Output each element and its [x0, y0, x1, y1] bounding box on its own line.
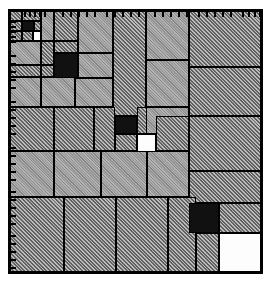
treemap-cell[interactable] [54, 53, 78, 78]
treemap-cell[interactable] [10, 77, 41, 107]
treemap-cell[interactable] [41, 41, 54, 65]
treemap-cell[interactable] [41, 77, 75, 107]
treemap-cell[interactable] [78, 53, 113, 78]
treemap-cell[interactable] [146, 11, 189, 60]
treemap-cell[interactable] [116, 197, 168, 272]
treemap-cell[interactable] [22, 31, 33, 41]
treemap-cell[interactable] [94, 107, 115, 151]
treemap-cell[interactable] [22, 21, 34, 31]
treemap-cell[interactable] [189, 116, 261, 171]
treemap-cell[interactable] [54, 41, 78, 53]
treemap-cell[interactable] [196, 233, 219, 272]
treemap-cell[interactable] [54, 107, 94, 151]
treemap-cell[interactable] [10, 107, 54, 151]
figure-canvas [0, 0, 271, 283]
treemap-cell[interactable] [189, 11, 261, 67]
treemap-cell-layer [10, 11, 261, 272]
treemap-cell[interactable] [64, 197, 116, 272]
treemap-cell[interactable] [115, 116, 137, 134]
treemap-cell[interactable] [156, 116, 189, 151]
mosaic-plot-frame [8, 9, 263, 274]
treemap-cell[interactable] [10, 197, 64, 272]
treemap-cell[interactable] [10, 11, 22, 21]
treemap-cell[interactable] [22, 11, 41, 21]
treemap-cell[interactable] [75, 78, 113, 107]
treemap-cell[interactable] [189, 67, 261, 116]
treemap-cell[interactable] [10, 151, 54, 197]
treemap-cell[interactable] [10, 41, 41, 65]
treemap-cell[interactable] [10, 31, 22, 41]
treemap-cell[interactable] [219, 233, 261, 272]
treemap-cell[interactable] [54, 151, 101, 197]
treemap-cell[interactable] [219, 203, 261, 233]
treemap-cell[interactable] [147, 151, 189, 197]
treemap-cell[interactable] [78, 11, 113, 53]
treemap-cell[interactable] [146, 60, 189, 107]
treemap-cell[interactable] [189, 203, 219, 233]
treemap-cell[interactable] [41, 65, 54, 77]
treemap-cell[interactable] [113, 11, 146, 116]
treemap-cell[interactable] [189, 171, 261, 203]
treemap-cell[interactable] [34, 21, 41, 31]
treemap-cell[interactable] [33, 31, 41, 41]
treemap-cell[interactable] [115, 134, 137, 151]
treemap-cell[interactable] [10, 21, 22, 31]
treemap-cell[interactable] [101, 151, 147, 197]
treemap-cell[interactable] [54, 11, 78, 41]
treemap-cell[interactable] [41, 11, 54, 41]
treemap-cell[interactable] [10, 65, 41, 77]
